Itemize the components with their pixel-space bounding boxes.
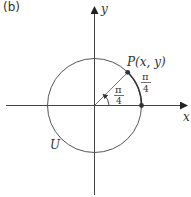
y-axis-label: y [100, 2, 108, 16]
svg-text:4: 4 [143, 84, 149, 94]
panel-label: (b) [3, 0, 20, 14]
radius-line [95, 72, 128, 105]
svg-text:π: π [142, 71, 149, 82]
circle-label: U [50, 138, 61, 152]
arc-highlight [128, 72, 142, 105]
unit-circle-diagram: (b) x y P(x, y) π 4 π 4 U [0, 0, 191, 197]
angle-arc-icon [105, 96, 110, 106]
x-axis-label: x [183, 110, 190, 124]
angle-label: π 4 [114, 84, 124, 106]
point-1-0 [139, 103, 144, 108]
point-p [125, 70, 130, 75]
arc-label: π 4 [141, 71, 151, 94]
svg-text:4: 4 [116, 96, 122, 106]
point-p-label: P(x, y) [126, 55, 166, 69]
svg-text:π: π [115, 84, 122, 95]
